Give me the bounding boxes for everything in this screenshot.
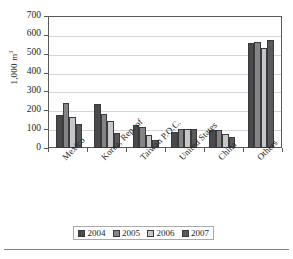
- legend-label: 2005: [122, 229, 140, 238]
- legend: 2004200520062007: [73, 226, 214, 240]
- y-axis-tick-label: 200: [1, 105, 41, 115]
- y-axis-tick-label: 100: [1, 124, 41, 134]
- legend-swatch: [113, 230, 120, 237]
- y-axis-tick-label: 0: [1, 143, 41, 153]
- bar-group: [242, 16, 280, 148]
- legend-item: 2005: [113, 229, 141, 238]
- legend-item: 2007: [182, 229, 210, 238]
- page-divider-rule: [4, 249, 289, 250]
- legend-swatch: [78, 230, 85, 237]
- bar-chart-figure: 1,000 m3 7006005004003002001000 MexicoKo…: [0, 0, 293, 259]
- legend-label: 2007: [191, 229, 209, 238]
- y-axis-tick-label: 400: [1, 67, 41, 77]
- x-axis-tick-mark: [126, 148, 127, 152]
- x-axis-tick-mark: [87, 148, 88, 152]
- legend-label: 2006: [157, 229, 175, 238]
- y-axis-tick-label: 300: [1, 86, 41, 96]
- y-axis-tick-label: 600: [1, 29, 41, 39]
- x-axis-tick-mark: [204, 148, 205, 152]
- x-axis-tick-mark: [282, 148, 283, 152]
- legend-item: 2004: [78, 229, 106, 238]
- y-axis-tick-label: 500: [1, 48, 41, 58]
- legend-label: 2004: [88, 229, 106, 238]
- x-axis-tick-mark: [165, 148, 166, 152]
- legend-swatch: [182, 230, 189, 237]
- y-axis-tick-label: 700: [1, 11, 41, 21]
- x-axis-tick-mark: [243, 148, 244, 152]
- legend-item: 2006: [147, 229, 175, 238]
- bar-group: [50, 16, 88, 148]
- legend-swatch: [147, 230, 154, 237]
- x-axis-tick-mark: [48, 148, 49, 152]
- bar-group: [88, 16, 126, 148]
- bar: [267, 40, 274, 148]
